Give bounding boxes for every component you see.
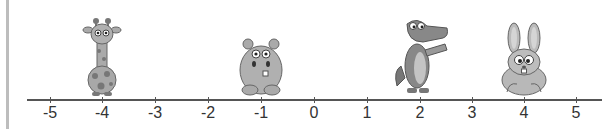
tick-mark (314, 97, 315, 103)
crocodile-icon (393, 16, 449, 96)
left-border (6, 0, 9, 129)
tick-mark (472, 97, 473, 103)
tick-mark (524, 97, 525, 103)
tick-mark (208, 97, 209, 103)
tick-mark (576, 97, 577, 103)
tick-mark (155, 97, 156, 103)
tick-label: -1 (246, 104, 276, 122)
tick-mark (420, 97, 421, 103)
tick-label: 3 (457, 104, 487, 122)
tick-mark (102, 97, 103, 103)
tick-label: 1 (352, 104, 382, 122)
hippo-icon (238, 38, 284, 96)
rabbit-icon (499, 22, 549, 96)
tick-mark (261, 97, 262, 103)
tick-label: 0 (299, 104, 329, 122)
tick-label: 4 (509, 104, 539, 122)
tick-mark (50, 97, 51, 103)
tick-label: 2 (405, 104, 435, 122)
tick-label: 5 (561, 104, 591, 122)
tick-label: -4 (87, 104, 117, 122)
tick-label: -2 (193, 104, 223, 122)
tick-label: -3 (140, 104, 170, 122)
giraffe-icon (82, 16, 122, 96)
tick-label: -5 (35, 104, 65, 122)
tick-mark (367, 97, 368, 103)
